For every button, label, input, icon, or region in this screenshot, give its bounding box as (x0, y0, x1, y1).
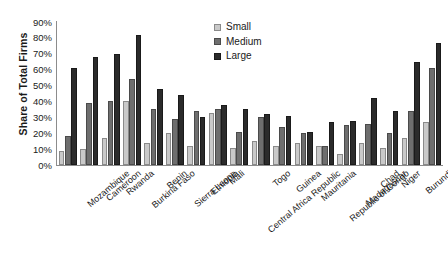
bar-group (187, 22, 205, 165)
bar-medium (194, 111, 200, 165)
bar-medium (215, 109, 221, 165)
bar-medium (236, 132, 242, 165)
bar-medium (387, 133, 393, 165)
bar-small (252, 141, 258, 165)
bar-group (359, 22, 377, 165)
x-tick-label: Togo (271, 169, 292, 188)
bar-large (371, 98, 377, 165)
bar-group (402, 22, 420, 165)
bar-medium (429, 68, 435, 165)
y-tick-label: 70% (4, 49, 52, 59)
bar-small (123, 101, 129, 165)
bar-large (136, 35, 142, 165)
bar-medium (301, 133, 307, 165)
bar-small (166, 133, 172, 165)
bar-large (307, 132, 313, 165)
bar-large (71, 68, 77, 165)
x-axis-tick-labels: MozambiqueCameroonRwandaBurkina FasoBeni… (56, 167, 446, 267)
bar-group (423, 22, 441, 165)
large-swatch-icon (214, 53, 221, 60)
bar-medium (151, 109, 157, 165)
bar-group (80, 22, 98, 165)
bar-small (230, 148, 236, 165)
bar-small (337, 154, 343, 165)
medium-swatch-icon (214, 38, 221, 45)
bar-small (59, 151, 65, 165)
bar-large (178, 95, 184, 165)
bar-group (166, 22, 184, 165)
bar-chart: Share of Total Firms 90%80%70%60%50%40%3… (0, 0, 448, 268)
y-tick-label: 50% (4, 81, 52, 91)
bar-group (144, 22, 162, 165)
bar-group (316, 22, 334, 165)
bar-medium (86, 103, 92, 165)
bar-medium (108, 101, 114, 165)
legend-label-medium: Medium (226, 37, 262, 47)
bar-small (402, 138, 408, 165)
y-tick-label: 60% (4, 65, 52, 75)
y-tick-label: 30% (4, 113, 52, 123)
bar-small (102, 138, 108, 165)
bar-large (243, 109, 249, 165)
bar-group (102, 22, 120, 165)
bar-medium (172, 119, 178, 165)
legend-label-small: Small (226, 22, 251, 32)
bar-group (273, 22, 291, 165)
bar-group (295, 22, 313, 165)
bar-small (423, 122, 429, 165)
bar-small (80, 149, 86, 165)
y-tick-label: 20% (4, 129, 52, 139)
bar-small (359, 143, 365, 165)
bar-medium (408, 111, 414, 165)
bar-medium (129, 79, 135, 165)
y-tick-label: 10% (4, 145, 52, 155)
bar-medium (322, 146, 328, 165)
legend-label-large: Large (226, 51, 252, 61)
bar-group (59, 22, 77, 165)
chart-legend: Small Medium Large (214, 22, 262, 61)
bar-large (350, 121, 356, 165)
legend-item-large[interactable]: Large (214, 51, 262, 61)
bar-medium (365, 124, 371, 165)
bar-large (436, 43, 442, 165)
bar-group (123, 22, 141, 165)
legend-item-medium[interactable]: Medium (214, 37, 262, 47)
bar-large (414, 62, 420, 165)
bar-small (209, 113, 215, 165)
bar-large (93, 57, 99, 165)
bar-medium (258, 117, 264, 165)
bar-small (295, 143, 301, 165)
legend-item-small[interactable]: Small (214, 22, 262, 32)
bar-large (393, 111, 399, 165)
bar-group (337, 22, 355, 165)
bar-small (144, 143, 150, 165)
y-axis-tick-labels: 90%80%70%60%50%40%30%20%10%0% (0, 0, 52, 268)
bar-small (316, 146, 322, 165)
bar-large (221, 105, 227, 165)
small-swatch-icon (214, 24, 221, 31)
x-tick-label: Burundi (424, 169, 448, 196)
bar-small (273, 146, 279, 165)
bar-medium (65, 136, 71, 165)
bar-large (114, 54, 120, 165)
bar-large (286, 116, 292, 165)
y-tick-label: 40% (4, 97, 52, 107)
bar-group (380, 22, 398, 165)
bar-large (157, 89, 163, 165)
bar-small (187, 146, 193, 165)
bar-large (329, 122, 335, 165)
bar-large (264, 114, 270, 165)
bar-large (200, 117, 206, 165)
bar-medium (344, 125, 350, 165)
bar-medium (279, 127, 285, 165)
bar-small (380, 148, 386, 165)
y-tick-label: 80% (4, 33, 52, 43)
y-tick-label: 0% (4, 161, 52, 171)
y-tick-label: 90% (4, 18, 52, 28)
